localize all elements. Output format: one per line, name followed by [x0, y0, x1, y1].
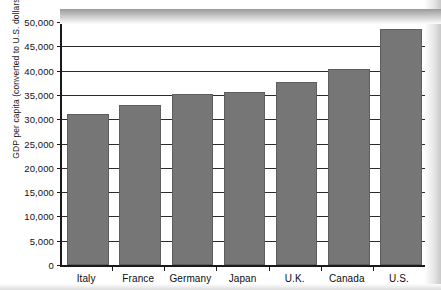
- y-axis-tick-label: 15,000: [24, 187, 54, 198]
- bar-france: [119, 105, 161, 265]
- y-axis-tick-right: [427, 119, 433, 120]
- y-axis-tick-right: [427, 168, 433, 169]
- plot-area: [60, 22, 427, 267]
- y-axis-tick-right: [427, 22, 433, 23]
- x-axis-label: U.K.: [285, 273, 305, 284]
- y-axis-tick-label-group: 05,00010,00015,00020,00025,00030,00035,0…: [0, 0, 57, 290]
- bar-italy: [67, 114, 109, 265]
- y-axis-tick-right: [427, 46, 433, 47]
- scan-shadow-right: [425, 0, 441, 290]
- bar-u-k: [276, 82, 318, 265]
- x-axis-tick: [112, 265, 113, 271]
- y-axis-tick-label: 30,000: [24, 114, 54, 125]
- x-axis-label: U.S.: [389, 273, 409, 284]
- y-axis-tick-label: 25,000: [24, 138, 54, 149]
- gdp-per-capita-bar-chart: GDP per capita (converted to U.S. dollar…: [0, 0, 441, 290]
- x-axis-group: ItalyFranceGermanyJapanU.K.CanadaU.S.: [60, 265, 431, 290]
- x-axis-label: Italy: [77, 273, 96, 284]
- bar-u-s: [380, 29, 422, 265]
- y-axis-tick-label: 20,000: [24, 162, 54, 173]
- y-axis-tick-label: 10,000: [24, 211, 54, 222]
- x-axis-label: Germany: [169, 273, 211, 284]
- y-axis-tick-right: [427, 71, 433, 72]
- y-axis-tick-right: [427, 95, 433, 96]
- y-axis-tick-label: 35,000: [24, 89, 54, 100]
- y-axis-tick-label: 5,000: [30, 235, 54, 246]
- bar-germany: [172, 94, 214, 265]
- y-axis-tick-label: 40,000: [24, 65, 54, 76]
- y-axis-tick-right: [427, 216, 433, 217]
- x-axis-label: Japan: [229, 273, 257, 284]
- y-axis-tick-label: 50,000: [24, 17, 54, 28]
- x-axis-tick: [425, 265, 426, 271]
- x-axis-label: Canada: [329, 273, 365, 284]
- bar-canada: [328, 69, 370, 265]
- bars-group: [62, 22, 427, 265]
- x-axis-tick: [164, 265, 165, 271]
- y-axis-tick-right: [427, 241, 433, 242]
- x-axis-tick: [321, 265, 322, 271]
- y-axis-tick-label: 0: [49, 260, 54, 271]
- y-axis-tick-label: 45,000: [24, 41, 54, 52]
- y-axis-tick-right: [427, 192, 433, 193]
- x-axis-tick: [373, 265, 374, 271]
- bar-japan: [224, 92, 266, 265]
- x-axis-tick: [216, 265, 217, 271]
- y-axis-tick-right: [427, 144, 433, 145]
- x-axis-tick: [269, 265, 270, 271]
- x-axis-label: France: [122, 273, 154, 284]
